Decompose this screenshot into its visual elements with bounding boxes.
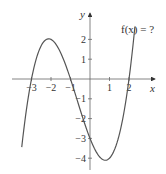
y-tick-label: −3 <box>75 133 86 144</box>
y-tick-label: 1 <box>81 54 86 65</box>
x-tick-label: −3 <box>26 82 37 93</box>
x-axis-label: x <box>149 82 155 94</box>
x-tick-label: 1 <box>107 82 112 93</box>
y-axis-label: y <box>79 8 85 20</box>
function-graph: −3−2−112 21−1−2−3−4 x y f(x) = ? <box>0 0 166 174</box>
x-tick-label: −2 <box>46 82 57 93</box>
y-tick-label: 2 <box>81 34 86 45</box>
function-label: f(x) = ? <box>121 23 154 36</box>
y-tick-label: −4 <box>75 153 86 164</box>
